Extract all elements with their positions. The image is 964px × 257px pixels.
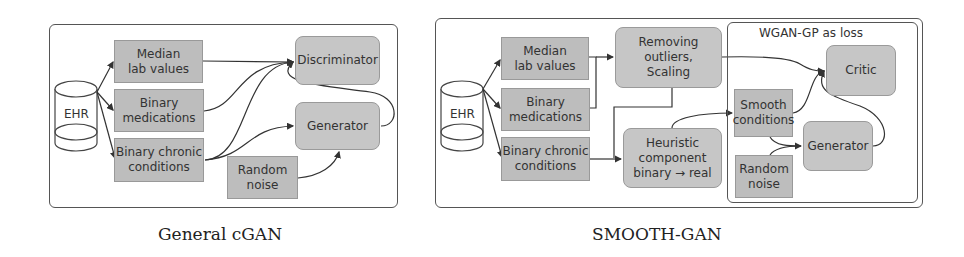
ehr-label: EHR [64,107,89,121]
median-lab-values-box: Median lab values [114,40,203,83]
smooth-gan-caption: SMOOTH-GAN [592,224,722,244]
random-noise-box: Random noise [227,156,298,199]
removing-outliers-scaling-box: Removing outliers, Scaling [615,27,722,88]
critic-box: Critic [826,45,896,96]
binary-chronic-conditions-box: Binary chronic conditions [114,138,204,182]
binary-medications-box-right: Binary medications [501,88,590,131]
discriminator-box: Discriminator [295,36,380,85]
median-lab-values-box-right: Median lab values [501,37,589,80]
binary-chronic-conditions-box-right: Binary chronic conditions [501,137,590,181]
general-cgan-caption: General cGAN [158,224,282,244]
generator-box: Generator [295,102,380,150]
wgan-gp-loss-title: WGAN-GP as loss [759,26,863,40]
ehr-label-right: EHR [450,107,475,121]
random-noise-box-right: Random noise [735,155,793,198]
smooth-conditions-box: Smooth conditions [734,89,793,137]
heuristic-component-box: Heuristic component binary → real [623,128,722,188]
binary-medications-box: Binary medications [114,89,204,132]
generator-box-right: Generator [803,121,873,171]
